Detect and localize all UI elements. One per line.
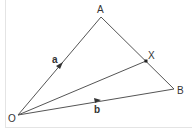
label-point-b: B bbox=[177, 85, 184, 96]
diagram-frame: A X B O a b bbox=[0, 0, 192, 132]
triangle-diagram: A X B O a b bbox=[0, 0, 192, 132]
label-point-x: X bbox=[148, 50, 155, 61]
label-vector-a: a bbox=[52, 54, 58, 65]
segment-OX bbox=[18, 61, 146, 115]
label-point-o: O bbox=[8, 113, 16, 124]
label-vector-b: b bbox=[94, 104, 100, 115]
label-point-a: A bbox=[97, 4, 104, 15]
segment-AB bbox=[101, 17, 174, 89]
